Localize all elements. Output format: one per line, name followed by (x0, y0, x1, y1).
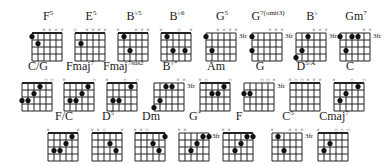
finger-dot (37, 84, 42, 89)
finger-dot (169, 84, 174, 89)
finger-dot (250, 134, 255, 139)
finger-dot (249, 48, 254, 53)
finger-dot (327, 141, 332, 146)
finger-dot (150, 141, 155, 146)
chord-name: Cmaj7 (314, 110, 354, 122)
finger-dot (349, 34, 354, 39)
fretboard-grid: ×××× (268, 126, 308, 164)
chord-name: B♭ (292, 10, 332, 22)
chord-name: G7(omit3) (248, 10, 288, 22)
fretboard-grid: ××○ (131, 126, 171, 164)
finger-dot (343, 91, 348, 96)
finger-dot (244, 134, 249, 139)
chord-name: G* (175, 110, 215, 122)
svg-text:×: × (300, 127, 303, 133)
svg-text:×: × (268, 27, 271, 33)
finger-dot (63, 141, 68, 146)
finger-dot (73, 98, 78, 103)
finger-dot (281, 148, 286, 153)
svg-text:×: × (222, 27, 225, 33)
finger-dot (182, 48, 187, 53)
finger-dot (337, 98, 342, 103)
finger-dot (275, 134, 280, 139)
fretboard-grid: ×× (175, 126, 215, 164)
finger-dot (209, 91, 214, 96)
svg-text:×: × (216, 27, 219, 33)
finger-dot (127, 48, 132, 53)
finger-dot (107, 141, 112, 146)
svg-text:×: × (228, 27, 231, 33)
fretboard-grid: ×× (44, 126, 84, 164)
chord-name: B♭6 (157, 10, 197, 22)
finger-dot (241, 91, 246, 96)
finger-dot (19, 98, 24, 103)
finger-dot (78, 41, 83, 46)
svg-text:×: × (274, 27, 277, 33)
svg-text:×: × (234, 27, 237, 33)
finger-dot (343, 48, 348, 53)
fretboard-grid: ××× (248, 26, 288, 64)
finger-dot (121, 34, 126, 39)
svg-text:○: ○ (266, 77, 270, 83)
fret-label: 3fr (187, 82, 195, 90)
finger-dot (51, 148, 56, 153)
fret-label: 3fr (373, 32, 381, 40)
finger-dot (31, 91, 36, 96)
fret-label: 3fr (305, 132, 313, 140)
svg-text:×: × (362, 27, 365, 33)
finger-dot (170, 48, 175, 53)
finger-dot (232, 148, 237, 153)
svg-text:×: × (368, 27, 371, 33)
finger-dot (116, 98, 121, 103)
finger-dot (215, 91, 220, 96)
chord-name: E5 (71, 10, 111, 22)
finger-dot (355, 34, 360, 39)
svg-text:×: × (177, 127, 180, 133)
finger-dot (113, 148, 118, 153)
finger-dot (69, 134, 74, 139)
finger-dot (85, 84, 90, 89)
finger-dot (221, 84, 226, 89)
fretboard-grid: ×○○○ (314, 126, 354, 164)
fretboard-grid: ××○× (88, 126, 128, 164)
svg-text:×: × (176, 77, 179, 83)
svg-text:×: × (183, 127, 186, 133)
svg-text:×: × (280, 27, 283, 33)
chord-name: F5 (28, 10, 68, 22)
chord-name: F (219, 110, 259, 122)
svg-text:×: × (272, 77, 275, 83)
chord-name: F/C (44, 110, 84, 122)
finger-dot (203, 34, 208, 39)
finger-dot (249, 34, 254, 39)
finger-dot (35, 41, 40, 46)
svg-text:×: × (312, 27, 315, 33)
svg-text:×: × (288, 127, 291, 133)
finger-dot (29, 34, 34, 39)
fretboard-grid: ○○ (18, 76, 58, 114)
chord-name: Fmaj7 (60, 60, 100, 72)
finger-dot (79, 91, 84, 96)
chord-name: Fmaj7sus2 (103, 60, 143, 72)
chord-name: B♭* (150, 60, 190, 72)
chord-name: D5/A (286, 60, 326, 72)
finger-dot (238, 141, 243, 146)
chord-name: C5 (268, 110, 308, 122)
chord-name: B♭5 (114, 10, 154, 22)
chord-name: D5 (88, 110, 128, 122)
chord-name: G (240, 60, 280, 72)
svg-text:×: × (182, 77, 185, 83)
finger-dot (337, 34, 342, 39)
finger-dot (206, 134, 211, 139)
finger-dot (157, 98, 162, 103)
chord-name: Dm (131, 110, 171, 122)
chord-name: Am (196, 60, 236, 72)
finger-dot (156, 148, 161, 153)
finger-dot (25, 98, 30, 103)
finger-dot (188, 148, 193, 153)
finger-dot (194, 141, 199, 146)
svg-text:×: × (324, 27, 327, 33)
finger-dot (209, 48, 214, 53)
chord-name: C/G (18, 60, 58, 72)
finger-dot (200, 134, 205, 139)
finger-dot (57, 148, 62, 153)
